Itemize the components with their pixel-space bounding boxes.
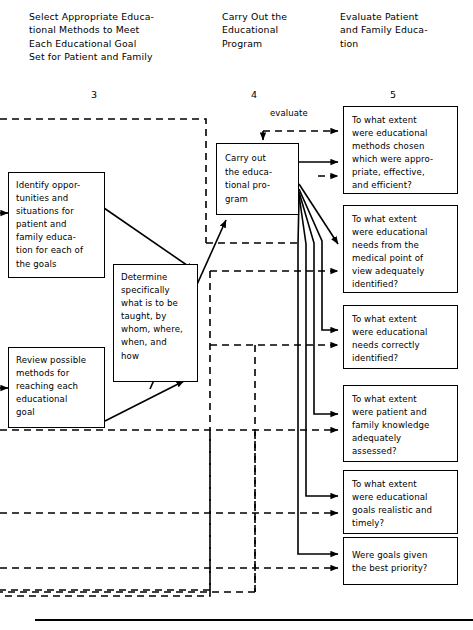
box-eval-needs-correct-text: To what extent were educational needs co… <box>352 313 453 365</box>
arrow-review-to-determine <box>105 381 184 421</box>
incoming-arrows-left <box>0 213 8 388</box>
box-carry-out-program[interactable]: Carry out the educa- tional pro- gram <box>216 143 299 215</box>
box-review-methods-text: Review possible methods for reaching eac… <box>16 354 100 419</box>
box-eval-knowledge-text: To what extent were patient and family k… <box>352 393 453 458</box>
box-eval-best-priority[interactable]: Were goals given the best priority? <box>343 537 458 585</box>
box-identify-opportunities[interactable]: Identify oppor- tunities and situations … <box>8 172 105 278</box>
box-eval-knowledge[interactable]: To what extent were patient and family k… <box>343 385 458 462</box>
box-eval-methods[interactable]: To what extent were educational methods … <box>343 106 458 194</box>
box-eval-needs-correct[interactable]: To what extent were educational needs co… <box>343 305 458 369</box>
box-eval-best-priority-text: Were goals given the best priority? <box>352 549 453 575</box>
box-eval-methods-text: To what extent were educational methods … <box>352 114 453 193</box>
box-carry-out-program-text: Carry out the educa- tional pro- gram <box>225 152 294 206</box>
box-review-methods[interactable]: Review possible methods for reaching eac… <box>8 347 105 428</box>
bottom-rule <box>35 619 473 621</box>
carryout-to-evaluations <box>298 162 338 554</box>
box-determine-specifically-text: Determine specifically what is to be tau… <box>121 271 193 363</box>
box-eval-goals-realistic[interactable]: To what extent were educational goals re… <box>343 470 458 534</box>
box-identify-opportunities-text: Identify oppor- tunities and situations … <box>16 179 100 271</box>
edge-label-evaluate: evaluate <box>270 108 308 118</box>
evaluate-dashed-connector <box>263 131 338 140</box>
box-determine-specifically[interactable]: Determine specifically what is to be tau… <box>113 264 198 382</box>
dashed-lower-routing <box>0 432 255 596</box>
box-eval-medical-needs[interactable]: To what extent were educational needs fr… <box>343 205 458 293</box>
arrow-identify-to-determine <box>104 208 194 270</box>
box-eval-goals-realistic-text: To what extent were educational goals re… <box>352 478 453 530</box>
box-eval-medical-needs-text: To what extent were educational needs fr… <box>352 213 453 292</box>
flowchart-canvas: Select Appropriate Educa- tional Methods… <box>0 0 473 630</box>
